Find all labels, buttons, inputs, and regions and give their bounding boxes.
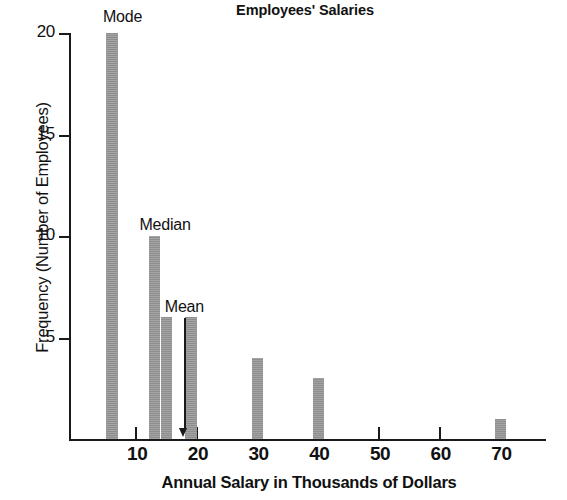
x-axis-line (69, 439, 546, 441)
x-tick-label: 60 (416, 443, 466, 465)
y-tick-mark (59, 33, 70, 35)
y-tick: 20 (5, 33, 55, 35)
x-tick-label: 30 (234, 443, 284, 465)
bar (252, 358, 264, 439)
x-tick-label: 40 (294, 443, 344, 465)
bar (106, 33, 118, 439)
x-tick-label: 20 (173, 443, 223, 465)
annotation-label-median: Median (139, 216, 190, 234)
y-tick: 5 (5, 338, 55, 340)
y-tick-label: 20 (11, 22, 55, 42)
bar (185, 317, 197, 439)
bar (161, 317, 173, 439)
y-tick-mark (59, 338, 70, 340)
bar (495, 419, 507, 439)
y-tick: 10 (5, 236, 55, 238)
bar (313, 378, 325, 439)
annotation-label-mode: Mode (103, 8, 142, 26)
x-tick-mark (135, 427, 137, 440)
x-tick-label: 50 (355, 443, 405, 465)
annotation-label-mean: Mean (165, 298, 204, 316)
x-tick-mark (439, 427, 441, 440)
y-tick-label: 5 (11, 327, 55, 347)
x-tick-label: 70 (476, 443, 526, 465)
mean-arrow-line (184, 318, 186, 429)
chart-title: Employees' Salaries (195, 2, 415, 18)
histogram-chart: Employees' Salaries Frequency (Number of… (0, 0, 567, 500)
y-tick-mark (59, 135, 70, 137)
y-tick-mark (59, 236, 70, 238)
x-tick-mark (378, 427, 380, 440)
bar (149, 236, 161, 439)
x-tick-label: 10 (112, 443, 162, 465)
y-tick-label: 15 (11, 124, 55, 144)
y-tick: 15 (5, 135, 55, 137)
y-tick-label: 10 (11, 225, 55, 245)
mean-arrow-head-icon (179, 428, 187, 437)
x-axis-label: Annual Salary in Thousands of Dollars (69, 473, 549, 492)
